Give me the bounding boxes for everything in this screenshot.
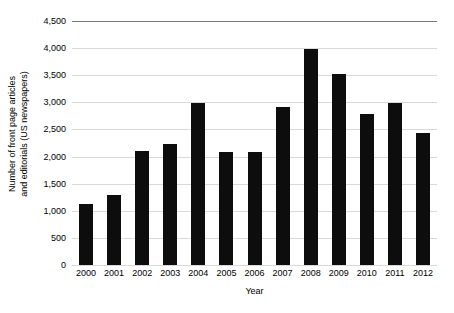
x-tick-label-2009: 2009 (325, 268, 353, 279)
y-tick-label-3000: 3,000 (22, 98, 66, 107)
bar-2007 (276, 107, 290, 265)
plot-area (72, 21, 437, 265)
y-tick-label-4500: 4,500 (22, 17, 66, 26)
y-tick-label-1000: 1,000 (22, 207, 66, 216)
bar-2011 (388, 103, 402, 265)
x-tick-label-2007: 2007 (269, 268, 297, 279)
y-axis-ticks: 05001,0001,5002,0002,5003,0003,5004,0004… (18, 21, 66, 265)
bar-series (72, 21, 437, 265)
x-tick-label-2004: 2004 (184, 268, 212, 279)
bar-2004 (191, 103, 205, 265)
bar-2001 (107, 195, 121, 265)
y-tick-label-500: 500 (22, 234, 66, 243)
bar-2005 (219, 152, 233, 265)
x-tick-label-2003: 2003 (156, 268, 184, 279)
x-tick-label-2001: 2001 (100, 268, 128, 279)
bar-2010 (360, 114, 374, 265)
x-axis-title: Year (72, 286, 437, 296)
y-tick-label-1500: 1,500 (22, 180, 66, 189)
bar-2000 (79, 204, 93, 265)
bar-2002 (135, 151, 149, 265)
y-tick-label-0: 0 (22, 261, 66, 270)
x-tick-label-2005: 2005 (212, 268, 240, 279)
y-tick-label-2500: 2,500 (22, 125, 66, 134)
bar-2012 (416, 133, 430, 265)
x-tick-label-2002: 2002 (128, 268, 156, 279)
y-axis-title-line1: Number of front page articles (6, 71, 18, 197)
bar-2006 (248, 152, 262, 265)
x-tick-label-2000: 2000 (72, 268, 100, 279)
x-tick-label-2010: 2010 (353, 268, 381, 279)
gridline-0 (72, 265, 437, 266)
x-tick-label-2011: 2011 (381, 268, 409, 279)
x-tick-label-2008: 2008 (297, 268, 325, 279)
x-axis-ticks: 2000200120022003200420052006200720082009… (72, 268, 437, 282)
x-tick-label-2006: 2006 (241, 268, 269, 279)
bar-2008 (304, 49, 318, 265)
x-tick-label-2012: 2012 (409, 268, 437, 279)
bar-chart: Number of front page articles and editor… (0, 0, 454, 313)
y-tick-label-3500: 3,500 (22, 71, 66, 80)
bar-2003 (163, 144, 177, 265)
y-tick-label-2000: 2,000 (22, 153, 66, 162)
bar-2009 (332, 74, 346, 265)
y-tick-label-4000: 4,000 (22, 44, 66, 53)
